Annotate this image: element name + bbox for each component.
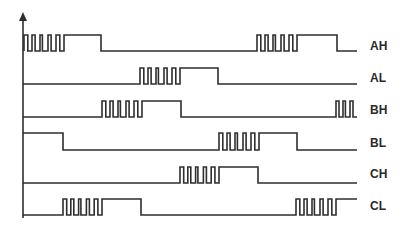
- signal-ah: AH: [24, 35, 387, 53]
- signal-label-bh: BH: [370, 103, 387, 117]
- waveform-bh: [23, 101, 357, 117]
- waveform-ch: [23, 167, 357, 183]
- signal-label-cl: CL: [370, 199, 386, 213]
- signal-label-ch: CH: [370, 167, 387, 181]
- waveform-bl: [23, 133, 357, 150]
- signal-label-al: AL: [370, 71, 386, 85]
- signal-cl: CL: [23, 199, 386, 215]
- signal-label-bl: BL: [370, 136, 386, 150]
- time-axis: [19, 12, 27, 218]
- signal-ch: CH: [23, 167, 387, 183]
- signal-bl: BL: [23, 133, 386, 150]
- signal-label-ah: AH: [370, 39, 387, 53]
- signal-bh: BH: [23, 101, 387, 117]
- gate-signal-timing-diagram: AHALBHBLCHCL: [0, 0, 406, 228]
- signal-al: AL: [23, 68, 386, 85]
- signal-waveforms: AHALBHBLCHCL: [23, 35, 387, 215]
- waveform-al: [23, 68, 357, 84]
- waveform-cl: [23, 199, 357, 215]
- up-arrow-icon: [19, 12, 27, 21]
- waveform-ah: [24, 35, 357, 51]
